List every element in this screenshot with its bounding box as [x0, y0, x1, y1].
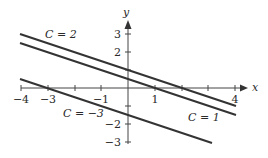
label-c-1: C = 1 — [188, 111, 220, 124]
y-axis-arrow-icon — [125, 20, 132, 29]
x-axis-arrow-icon — [240, 85, 248, 92]
level-curves-chart: −4 −3 −1 1 4 3 2 −2 −3 x y C = 2 C = 1 C… — [0, 0, 268, 158]
y-tick-3: 3 — [114, 28, 121, 41]
x-axis-label: x — [252, 81, 259, 94]
y-tick-minus-2: −2 — [105, 118, 121, 131]
y-axis — [125, 28, 131, 144]
y-tick-2: 2 — [114, 46, 121, 59]
x-tick-1: 1 — [152, 93, 159, 106]
label-c-minus-3: C = −3 — [63, 107, 104, 120]
y-tick-minus-3: −3 — [105, 136, 121, 149]
x-tick-minus-4: −4 — [13, 93, 29, 106]
y-axis-label: y — [122, 6, 130, 19]
x-tick-minus-1: −1 — [93, 93, 109, 106]
x-tick-4: 4 — [232, 93, 239, 106]
x-tick-minus-3: −3 — [40, 93, 56, 106]
label-c-2: C = 2 — [45, 28, 77, 41]
